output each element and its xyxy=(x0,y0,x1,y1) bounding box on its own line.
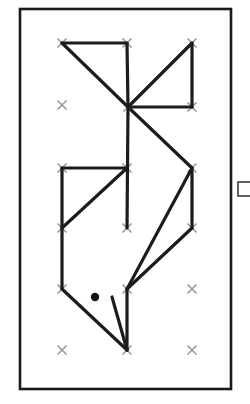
filled-dot-marker xyxy=(91,293,99,301)
drawing-canvas: Line drawing puzzle on dot grid xyxy=(0,0,250,404)
puzzle-figure xyxy=(0,0,250,404)
line-segment xyxy=(127,43,128,107)
